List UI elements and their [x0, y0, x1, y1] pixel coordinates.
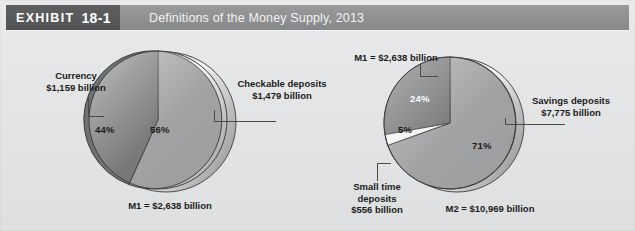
label-savings-deposits: Savings deposits $7,775 billion [512, 95, 630, 118]
m2-gloss [384, 57, 516, 189]
leader-savings-vertical [505, 118, 506, 125]
caption-m1: M1 = $2,638 billion [80, 200, 260, 212]
label-savings-line2: $7,775 billion [512, 107, 630, 119]
leader-small-time-horizontal [377, 163, 391, 164]
leader-m1-component-vertical [420, 64, 421, 76]
exhibit-tag: EXHIBIT 18-1 [6, 5, 120, 30]
leader-currency-horizontal [88, 116, 104, 117]
exhibit-title: Definitions of the Money Supply, 2013 [149, 5, 364, 30]
label-checkable-deposits: Checkable deposits $1,479 billion [223, 78, 341, 101]
m2-percent-small-time: 5% [398, 124, 412, 135]
leader-savings-horizontal [505, 124, 565, 125]
leader-checkable-horizontal [214, 121, 276, 122]
label-checkable-line2: $1,479 billion [223, 90, 341, 102]
label-savings-line1: Savings deposits [512, 95, 630, 107]
label-currency: Currency $1,159 billion [24, 70, 128, 93]
leader-checkable-vertical [214, 110, 215, 122]
exhibit-figure: EXHIBIT 18-1 Definitions of the Money Su… [0, 0, 635, 231]
leader-small-time-vertical [377, 163, 378, 181]
exhibit-header-bar: EXHIBIT 18-1 Definitions of the Money Su… [6, 5, 629, 30]
leader-currency-vertical [88, 94, 89, 116]
label-small-time-line1: Small time [322, 181, 432, 193]
exhibit-word: EXHIBIT [16, 11, 74, 25]
label-currency-line2: $1,159 billion [24, 82, 128, 94]
m1-percent-currency: 44% [95, 124, 115, 135]
label-currency-line1: Currency [24, 70, 128, 82]
m2-percent-savings: 71% [472, 140, 492, 151]
m2-percent-m1: 24% [410, 93, 430, 104]
label-m1-component: M1 = $2,638 billion [320, 52, 472, 64]
label-checkable-line1: Checkable deposits [223, 78, 341, 90]
leader-m1-component-horizontal [420, 76, 438, 77]
caption-m2: M2 = $10,969 billion [400, 203, 580, 215]
exhibit-number: 18-1 [81, 10, 111, 26]
m1-percent-checkable: 56% [150, 124, 170, 135]
